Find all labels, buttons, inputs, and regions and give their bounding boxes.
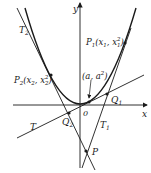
parabola-tangent-diagram: y x 0 T2 P1(x1, x21) P2(x2, x22) (a, a2)… [0, 0, 151, 173]
label-t1: T1 [100, 120, 110, 131]
label-q1: Q1 [111, 95, 122, 106]
label-p1: P1(x1, x21) [85, 36, 124, 48]
parabola-curve [25, 8, 136, 104]
label-p2: P2(x2, x22) [13, 74, 52, 86]
x-axis-label: x [142, 109, 147, 119]
label-t2: T2 [19, 25, 29, 36]
label-a-point: (a, a2) [82, 70, 108, 81]
y-axis-label: y [72, 4, 79, 14]
pointer-arrow [89, 80, 91, 98]
label-p: P [91, 147, 99, 157]
label-t: T [30, 122, 37, 132]
point-q1 [105, 92, 108, 95]
origin-label: 0 [83, 109, 88, 118]
point-a [87, 100, 90, 103]
point-q2 [67, 111, 70, 114]
label-q2: Q2 [62, 117, 73, 128]
point-p [84, 149, 87, 152]
